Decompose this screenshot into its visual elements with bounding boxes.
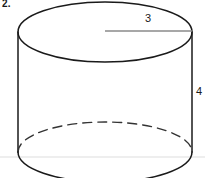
- height-measure-label: 4: [196, 86, 202, 97]
- cylinder-top-ellipse: [18, 2, 192, 62]
- radius-measure-label: 3: [145, 13, 151, 24]
- cylinder-bottom-front-arc: [18, 152, 192, 178]
- figure-page: 2. 3 4: [0, 0, 205, 178]
- cylinder-diagram: [0, 0, 205, 178]
- problem-number-label: 2.: [2, 0, 11, 9]
- cylinder-bottom-hidden-arc: [18, 122, 192, 152]
